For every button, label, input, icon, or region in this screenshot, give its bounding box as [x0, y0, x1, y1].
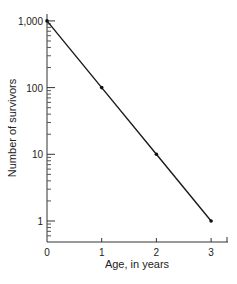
- x-tick-label: 2: [154, 247, 160, 258]
- x-tick-label: 1: [99, 247, 105, 258]
- x-tick-label: 0: [44, 247, 50, 258]
- data-point: [209, 219, 213, 223]
- data-point: [155, 153, 159, 157]
- x-axis-label: Age, in years: [105, 258, 170, 270]
- y-ticks: 1101001,000: [18, 16, 55, 236]
- y-tick-label: 1,000: [18, 16, 43, 27]
- y-tick-label: 1: [37, 216, 43, 227]
- x-ticks: 0123: [44, 237, 227, 258]
- x-tick-label: 3: [208, 247, 214, 258]
- y-tick-label: 100: [26, 83, 43, 94]
- survivorship-chart: 1101001,000 0123 Age, in years Number of…: [0, 0, 237, 284]
- survivors-line: [47, 21, 211, 221]
- y-axis-label: Number of survivors: [6, 78, 18, 177]
- y-tick-label: 10: [32, 149, 44, 160]
- data-point: [45, 19, 49, 23]
- data-point: [100, 86, 104, 90]
